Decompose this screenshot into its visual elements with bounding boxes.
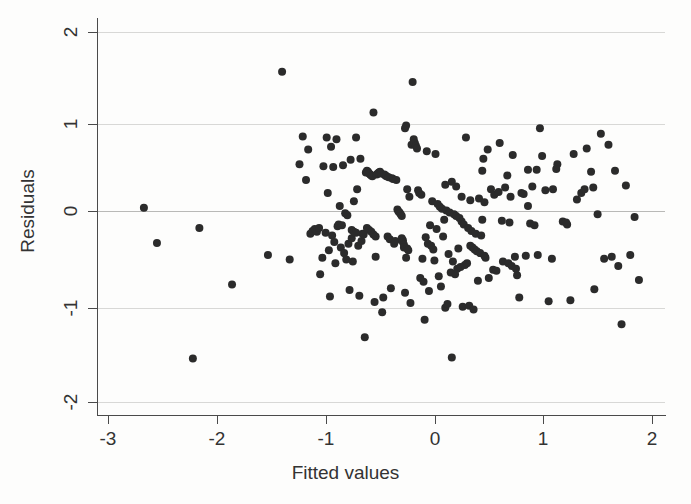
scatter-point	[433, 225, 441, 233]
scatter-point	[608, 253, 616, 261]
scatter-point	[463, 259, 471, 267]
scatter-point	[420, 278, 428, 286]
scatter-point	[455, 214, 463, 222]
scatter-point	[490, 191, 498, 199]
scatter-point	[373, 170, 381, 178]
scatter-point	[531, 221, 539, 229]
scatter-point	[403, 185, 411, 193]
scatter-point	[348, 234, 356, 242]
scatter-point	[583, 145, 591, 153]
scatter-point	[336, 202, 344, 210]
scatter-point	[424, 240, 432, 248]
scatter-point	[563, 220, 571, 228]
scatter-point	[153, 239, 161, 247]
scatter-point	[365, 226, 373, 234]
scatter-point	[332, 135, 340, 143]
scatter-point	[338, 221, 346, 229]
scatter-point	[635, 276, 643, 284]
scatter-point	[372, 232, 380, 240]
scatter-point	[302, 176, 310, 184]
scatter-point	[478, 216, 486, 224]
scatter-point	[462, 133, 470, 141]
scatter-point	[482, 254, 490, 262]
scatter-point	[400, 244, 408, 252]
scatter-point	[335, 220, 343, 228]
scatter-point	[473, 247, 481, 255]
scatter-point	[513, 271, 521, 279]
scatter-point	[507, 193, 515, 201]
scatter-point	[406, 299, 414, 307]
scatter-point	[443, 300, 451, 308]
scatter-point	[408, 141, 416, 149]
scatter-point	[439, 232, 447, 240]
scatter-point	[475, 195, 483, 203]
scatter-point	[604, 141, 612, 149]
scatter-point	[318, 254, 326, 262]
scatter-point	[484, 145, 492, 153]
y-ticklabel-0-text: 0	[60, 206, 82, 217]
scatter-point	[626, 251, 634, 259]
scatter-point	[306, 230, 314, 238]
scatter-point	[536, 124, 544, 132]
scatter-point	[348, 226, 356, 234]
scatter-point	[316, 270, 324, 278]
scatter-point	[451, 270, 459, 278]
gridline-y-neg1	[98, 308, 665, 309]
scatter-point	[480, 198, 488, 206]
scatter-point	[545, 297, 553, 305]
scatter-point	[611, 167, 619, 175]
scatter-point	[331, 259, 339, 267]
gridline-y-1	[98, 124, 665, 125]
x-tick-1	[543, 415, 544, 424]
scatter-point	[480, 252, 488, 260]
scatter-point	[347, 156, 355, 164]
x-ticklabel-neg1: -1	[306, 428, 346, 450]
x-tick-0	[435, 415, 436, 424]
y-ticklabel-0: 0	[58, 199, 84, 223]
scatter-point	[434, 200, 442, 208]
scatter-point	[340, 249, 348, 257]
scatter-point	[509, 151, 517, 159]
y-ticklabel-2-text: 2	[60, 27, 82, 38]
scatter-point	[534, 251, 542, 259]
scatter-point	[228, 281, 236, 289]
scatter-point	[590, 285, 598, 293]
scatter-point	[466, 196, 474, 204]
scatter-plot-figure: 2 1 0 -1 -2 -3 -2 -1 0 1 2 Fitted values…	[0, 0, 691, 504]
scatter-point	[396, 208, 404, 216]
scatter-point	[431, 150, 439, 158]
scatter-point	[458, 218, 466, 226]
scatter-point	[319, 162, 327, 170]
scatter-point	[195, 224, 203, 232]
scatter-point	[360, 231, 368, 239]
scatter-point	[470, 306, 478, 314]
scatter-point	[581, 185, 589, 193]
scatter-point	[453, 265, 461, 273]
scatter-point	[372, 253, 380, 261]
x-axis-title: Fitted values	[0, 462, 691, 484]
y-ticklabel-1-text: 1	[60, 119, 82, 130]
scatter-point	[577, 189, 585, 197]
scatter-point	[375, 169, 383, 177]
scatter-point	[295, 160, 303, 168]
scatter-point	[448, 178, 456, 186]
scatter-point	[378, 308, 386, 316]
scatter-point	[570, 150, 578, 158]
scatter-point	[471, 245, 479, 253]
scatter-point	[600, 255, 608, 263]
scatter-point	[520, 190, 528, 198]
scatter-point	[354, 242, 362, 250]
scatter-point	[423, 147, 431, 155]
scatter-point	[437, 282, 445, 290]
scatter-point	[334, 222, 342, 230]
scatter-point	[299, 133, 307, 141]
scatter-point	[326, 293, 334, 301]
scatter-point	[349, 257, 357, 265]
gridline-y-2	[98, 32, 665, 33]
scatter-point	[352, 133, 360, 141]
scatter-point	[410, 135, 418, 143]
scatter-point	[562, 219, 570, 227]
scatter-point	[286, 256, 294, 264]
scatter-point	[458, 193, 466, 201]
scatter-point	[346, 286, 354, 294]
